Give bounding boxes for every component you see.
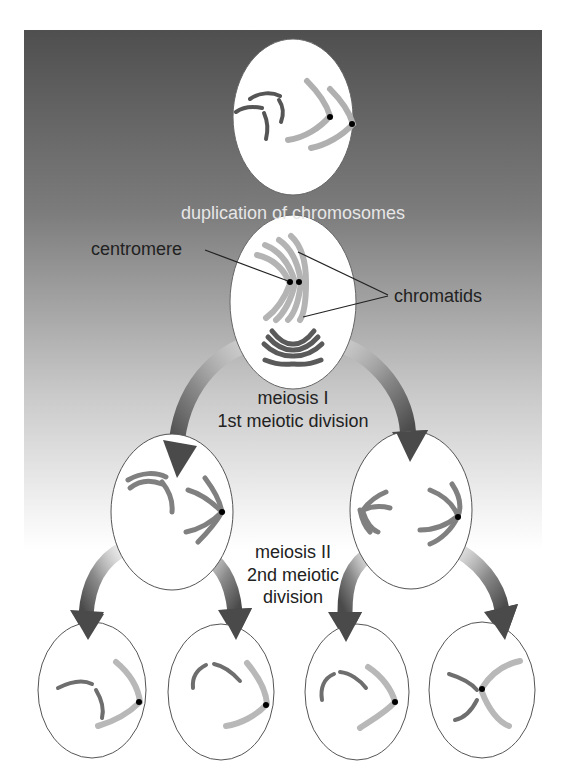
centromere-dot [392, 699, 398, 705]
label-duplication: duplication of chromosomes [181, 202, 405, 224]
centromere-dot [327, 114, 333, 120]
label-chromatids: chromatids [394, 285, 482, 307]
label-meiosis1-title: meiosis I [257, 387, 328, 409]
centromere-dot [479, 686, 485, 692]
centromere-dot [263, 702, 269, 708]
diagram-canvas [0, 0, 568, 772]
centromere-dot [349, 121, 355, 127]
label-meiosis1-subtitle: 1st meiotic division [217, 410, 368, 432]
cell-meiosis2-4 [429, 604, 535, 758]
centromere-dot [219, 509, 225, 515]
cell-meiosis2-2 [168, 608, 274, 760]
label-meiosis2-subtitle-2: division [263, 586, 323, 608]
label-meiosis2-subtitle-1: 2nd meiotic [247, 564, 339, 586]
centromere-dot [287, 279, 293, 285]
centromere-dot [455, 514, 461, 520]
cell-meiosis2-1 [38, 612, 146, 758]
label-meiosis2-title: meiosis II [255, 541, 331, 563]
cell-meiosis1-left [111, 434, 233, 590]
centromere-dot [296, 279, 302, 285]
centromere-dot [136, 699, 142, 705]
cell-meiosis2-3 [305, 612, 409, 760]
cell-duplicated [230, 215, 356, 389]
meiosis-diagram: duplication of chromosomes centromere ch… [0, 0, 568, 772]
cell-meiosis1-right [350, 430, 472, 589]
label-centromere: centromere [91, 238, 182, 260]
